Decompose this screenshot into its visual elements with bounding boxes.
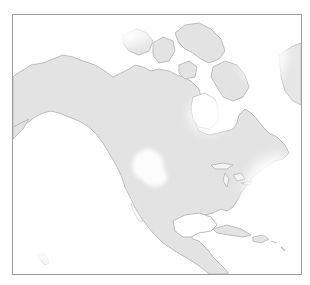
region-arctic-island-2: [153, 37, 175, 63]
map-frame: North America: [12, 14, 302, 275]
region-hispaniola: [253, 235, 269, 243]
north-america-map: [13, 15, 301, 274]
region-lesser-antilles: [271, 241, 285, 251]
region-cuba: [213, 225, 251, 237]
region-arctic-island-5: [179, 61, 197, 79]
region-arctic-island-3: [175, 23, 225, 63]
